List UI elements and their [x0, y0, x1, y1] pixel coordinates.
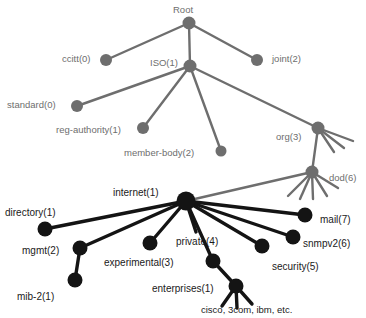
tree-edge-org-to-dod	[312, 128, 318, 172]
tree-edge-iso-to-standard	[77, 66, 190, 106]
tree-node-mail[interactable]	[298, 208, 313, 223]
tree-edge-dod-to-internet	[186, 172, 312, 201]
tree-edge-internet-to-mgmt	[80, 201, 186, 248]
tree-graphics	[0, 0, 366, 318]
tree-node-reg-authority[interactable]	[137, 122, 149, 134]
tree-node-root[interactable]	[183, 17, 196, 30]
tree-edge-root-to-ccitt	[106, 23, 189, 60]
tree-node-directory[interactable]	[38, 222, 53, 237]
oid-tree-diagram: Rootccitt(0)ISO(1)joint(2)standard(0)reg…	[0, 0, 366, 318]
tree-node-internet[interactable]	[177, 192, 196, 211]
tree-node-joint[interactable]	[251, 54, 263, 66]
tree-edge-root-to-joint	[189, 23, 257, 60]
tree-node-member-body[interactable]	[216, 146, 227, 157]
edge-layer	[45, 23, 353, 308]
tree-node-mgmt[interactable]	[73, 241, 88, 256]
tree-node-enterprises[interactable]	[229, 279, 244, 294]
tree-node-standard[interactable]	[71, 100, 83, 112]
tree-node-dod[interactable]	[306, 166, 319, 179]
tree-node-security[interactable]	[255, 239, 270, 254]
tree-node-snmpv2[interactable]	[286, 230, 301, 245]
tree-node-org[interactable]	[312, 122, 325, 135]
tree-node-private[interactable]	[206, 254, 221, 269]
tree-node-mib-2[interactable]	[68, 273, 83, 288]
node-layer	[38, 17, 325, 294]
tree-node-experimental[interactable]	[143, 236, 158, 251]
tree-node-ccitt[interactable]	[100, 54, 112, 66]
tree-node-iso[interactable]	[184, 60, 197, 73]
